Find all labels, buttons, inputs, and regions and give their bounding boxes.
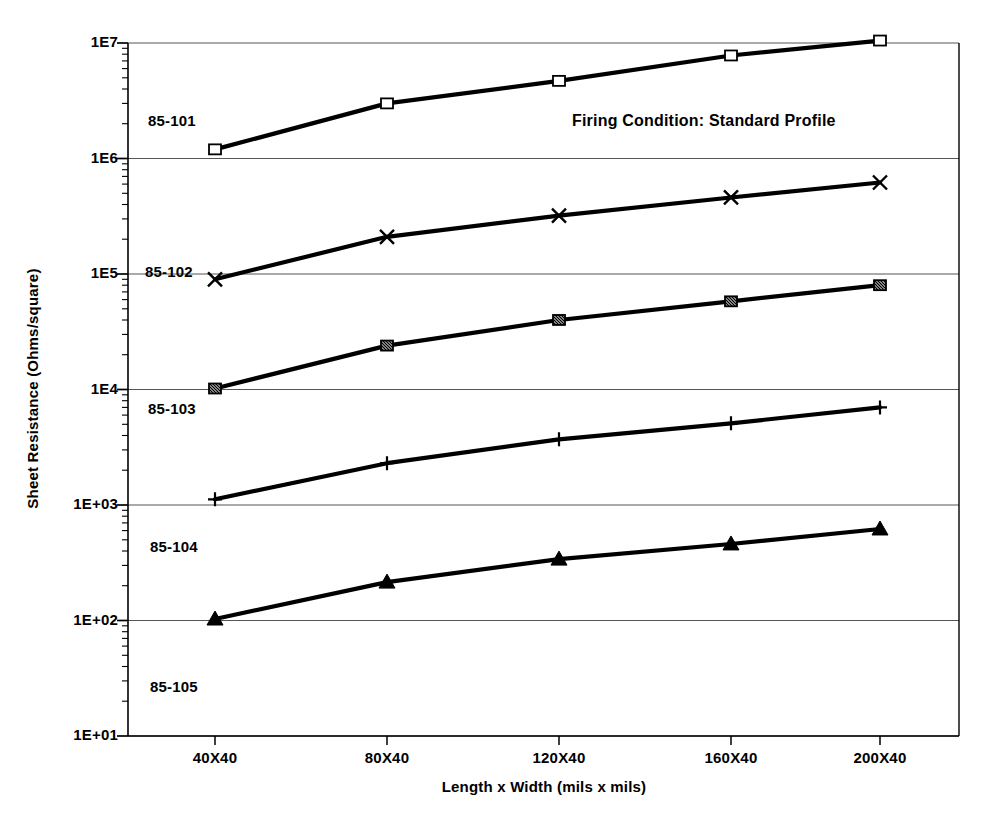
- y-minor-ticks: [122, 48, 128, 701]
- series-85-102: [208, 400, 887, 506]
- y-tick-label-1E7: 1E7: [10, 33, 118, 50]
- series-label-85-104: 85-104: [150, 538, 198, 555]
- series-85-105: [209, 36, 886, 155]
- x-tick-label-200X40: 200X40: [820, 749, 940, 766]
- chart-figure: Sheet Resistance (Ohms/square) Length x …: [0, 0, 992, 813]
- series-85-101: [207, 521, 888, 625]
- firing-condition-annotation: Firing Condition: Standard Profile: [572, 112, 836, 130]
- x-tick-label-120X40: 120X40: [499, 749, 619, 766]
- y-tick-label-1E+03: 1E+03: [10, 495, 118, 512]
- x-tick-label-80X40: 80X40: [327, 749, 447, 766]
- y-tick-label-1E+01: 1E+01: [10, 726, 118, 743]
- y-tick-label-1E4: 1E4: [10, 380, 118, 397]
- gridlines: [128, 43, 959, 736]
- y-tick-label-1E5: 1E5: [10, 264, 118, 281]
- x-axis-title: Length x Width (mils x mils): [128, 778, 960, 795]
- series-label-85-102: 85-102: [145, 263, 193, 280]
- series-label-85-103: 85-103: [148, 400, 196, 417]
- y-tick-label-1E+02: 1E+02: [10, 611, 118, 628]
- y-tick-label-1E6: 1E6: [10, 149, 118, 166]
- series-85-104: [208, 175, 887, 286]
- series-85-103: [209, 280, 886, 393]
- x-ticks: [215, 736, 880, 745]
- x-tick-label-160X40: 160X40: [671, 749, 791, 766]
- series-label-85-101: 85-101: [148, 112, 196, 129]
- x-tick-label-40X40: 40X40: [155, 749, 275, 766]
- series-label-85-105: 85-105: [150, 678, 198, 695]
